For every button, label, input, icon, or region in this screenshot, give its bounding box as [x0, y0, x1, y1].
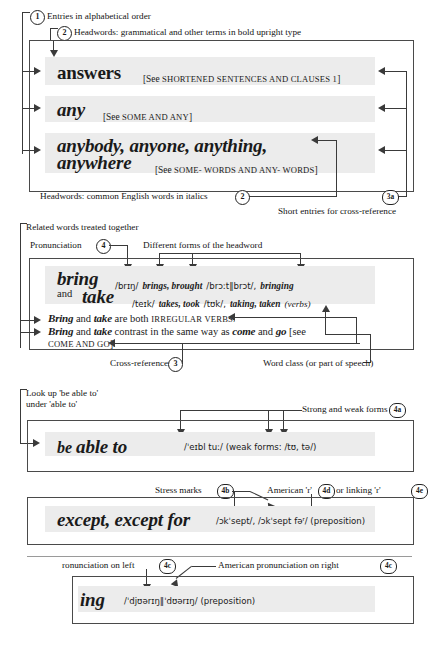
- leader-3-spine: [356, 317, 357, 343]
- note1-irregular: IRREGULAR VERBS.: [151, 314, 235, 324]
- leader-wordclass-h: [325, 334, 371, 335]
- leader-1-spine: [22, 12, 23, 154]
- see-open: [See: [155, 165, 174, 175]
- arrow-right-answers: [34, 67, 41, 75]
- leader-3a-any: [385, 108, 407, 109]
- leader-2-down: [50, 28, 51, 40]
- label-american-r: American 'r': [267, 485, 312, 496]
- be-word: be: [57, 439, 76, 456]
- callout-4c-right: 4c: [380, 559, 397, 574]
- leader-answers-left: [22, 71, 35, 72]
- leader-2b-h2: [249, 196, 337, 197]
- arrow-left-any-right: [378, 104, 385, 112]
- see-open: [See: [143, 74, 162, 84]
- leader-3a-anybody: [385, 150, 407, 151]
- entry-bring-line: /brɪŋ/ brings, brought /brɔːt‖brɔt/, bri…: [115, 275, 294, 293]
- entry-anybody-crossref: [See SOME- WORDS AND ANY- WORDS]: [155, 159, 318, 177]
- leader-related-spine: [20, 223, 21, 348]
- arrow-left-note2-crossref: [108, 339, 115, 347]
- leader-3-note2: [115, 343, 360, 344]
- label-headwords-bold: Headwords: grammatical and other terms i…: [74, 27, 301, 38]
- note2-and1: and: [73, 326, 93, 337]
- take-forms-c: taking, taken: [230, 299, 281, 309]
- callout-4a: 4a: [389, 403, 406, 418]
- entry-answers-crossref: [See SHORTENED SENTENCES AND CLAUSES 1]: [143, 68, 340, 86]
- leader-3a-answers: [385, 71, 407, 72]
- label-related-words: Related words treated together: [26, 222, 139, 233]
- entry-any-headword: any: [57, 99, 85, 121]
- leader-note2-left: [20, 332, 35, 333]
- leader-2b-v: [336, 140, 337, 197]
- note-come-and-go-continued: COME AND GO].: [48, 338, 115, 349]
- note2-contrast: contrast in the same way as: [112, 326, 232, 337]
- see-close: ]: [337, 74, 340, 84]
- note2-bring: Bring: [48, 325, 73, 337]
- bring-forms-a: brings, brought: [142, 281, 202, 291]
- note1-take: take: [94, 312, 112, 324]
- entry-be-able-to-headword: be able to: [57, 436, 127, 458]
- entry-anybody-headword-line2: anywhere: [57, 152, 131, 174]
- entry-except-pronunciation: /ɔkˈsept/, /ɔkˈsept fəʳ/ (preposition): [216, 516, 365, 526]
- see-reference: SHORTENED SENTENCES AND CLAUSES 1: [162, 74, 337, 84]
- take-wordclass: (verbs): [285, 299, 311, 309]
- label-or-linking-r: or linking 'r': [336, 485, 381, 496]
- arrow-left-answers-right: [378, 67, 385, 75]
- label-american-pron-right: American pronunciation on right: [218, 560, 339, 571]
- note1-and: and: [73, 313, 93, 324]
- leader-lookup-spine: [20, 389, 21, 444]
- arrow-up-wordclass: [322, 305, 330, 312]
- callout-3a: 3a: [382, 190, 399, 205]
- see-close: ]: [315, 165, 318, 175]
- note2-go: go: [276, 325, 287, 337]
- entry-any-background: [45, 96, 375, 122]
- label-look-up-line2: under 'able to': [26, 399, 77, 410]
- see-open: [See: [103, 112, 122, 122]
- arrow-right-anybody: [34, 146, 41, 154]
- label-strong-weak-forms: Strong and weak forms: [302, 404, 387, 415]
- label-entries-alphabetical: Entries in alphabetical order: [47, 11, 151, 22]
- note-irregular-verbs: Bring and take are both IRREGULAR VERBS.: [48, 312, 235, 324]
- leader-forms-bar: [159, 253, 300, 254]
- bring-forms-c: bringing: [260, 281, 293, 291]
- leader-note1-left: [20, 320, 35, 321]
- entry-answers-headword: answers: [57, 62, 121, 84]
- entry-be-able-to-pronunciation: /ˈeɪbl tuː/ (weak forms: /tʊ, tə/): [184, 442, 316, 452]
- label-look-up-line1: Look up 'be able to': [26, 388, 98, 399]
- callout-4c-left: 4c: [159, 559, 176, 574]
- entry-during-pronunciation: /ˈdjʊərɪŋ‖ˈdʊərɪŋ/ (preposition): [124, 596, 255, 606]
- leader-anybody-left: [22, 150, 35, 151]
- note2-comeandgo: COME AND GO: [48, 339, 110, 349]
- note2-and2: and: [255, 326, 275, 337]
- diagram-canvas: 1 Entries in alphabetical order 2 Headwo…: [0, 0, 444, 653]
- callout-1: 1: [30, 10, 45, 25]
- note2-come: come: [232, 325, 255, 337]
- entry-during-headword: ing: [80, 589, 105, 611]
- leader-any-left: [22, 108, 35, 109]
- entry-except-headword: except, except for: [57, 509, 190, 531]
- leader-related-top: [20, 223, 27, 224]
- take-forms-a: takes, took: [159, 299, 200, 309]
- callout-3: 3: [168, 357, 183, 372]
- leader-4c-right-h: [192, 566, 216, 567]
- label-short-entries: Short entries for cross-reference: [278, 206, 396, 217]
- leader-wordclass-v: [325, 311, 326, 335]
- entry-any-crossref: [See SOME AND ANY]: [103, 106, 192, 124]
- brought-pronunciation: /brɔːt‖brɔt/,: [206, 281, 256, 291]
- took-pronunciation: /tʊk/,: [204, 299, 226, 309]
- callout-2: 2: [57, 26, 72, 41]
- divider-line: [27, 556, 412, 557]
- note1-bring: Bring: [48, 312, 73, 324]
- leader-3a-spine: [406, 71, 407, 196]
- entry-take-headword: take: [82, 286, 114, 308]
- arrow-left-into-anybody: [311, 136, 318, 144]
- callout-2-italic: 2: [235, 190, 250, 205]
- label-pronunciation: Pronunciation: [30, 240, 82, 251]
- leader-2-top: [50, 28, 58, 29]
- leader-4-h: [109, 245, 128, 246]
- label-headwords-italic: Headwords: common English words in itali…: [40, 191, 208, 202]
- leader-1-top: [22, 12, 30, 13]
- label-word-class: Word class (or part of speech): [263, 358, 373, 369]
- bring-pronunciation: /brɪŋ/: [115, 281, 138, 291]
- note-come-and-go: Bring and take contrast in the same way …: [48, 325, 306, 337]
- arrow-right-note1: [34, 316, 41, 324]
